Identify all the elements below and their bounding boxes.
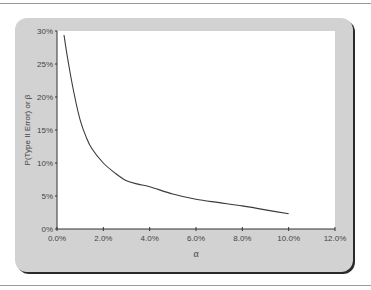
x-tick-label: 8.0%	[233, 234, 251, 243]
y-tick-label: 25%	[37, 60, 53, 69]
y-tick-label: 30%	[37, 27, 53, 36]
x-tick-label: 6.0%	[187, 234, 205, 243]
bottom-rule	[0, 285, 371, 286]
x-tick-label: 12.0%	[324, 234, 347, 243]
x-tick-label: 4.0%	[141, 234, 159, 243]
x-tick-label: 0.0%	[48, 234, 66, 243]
x-tick-label: 2.0%	[94, 234, 112, 243]
y-tick-label: 20%	[37, 93, 53, 102]
chart: 0%5%10%15%20%25%30% 0.0%2.0%4.0%6.0%8.0%…	[0, 0, 371, 290]
y-axis-ticks: 0%5%10%15%20%25%30%	[37, 27, 57, 234]
y-axis-title: P(Type II Error) or β	[23, 94, 32, 165]
y-tick-label: 0%	[41, 225, 53, 234]
y-tick-label: 15%	[37, 126, 53, 135]
y-tick-label: 10%	[37, 159, 53, 168]
y-tick-label: 5%	[41, 192, 53, 201]
x-axis-title: α	[193, 248, 199, 259]
x-tick-label: 10.0%	[277, 234, 300, 243]
